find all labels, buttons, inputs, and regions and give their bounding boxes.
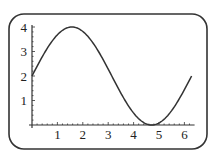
y-tick-label: 1	[21, 93, 28, 108]
y-tick-label: 2	[21, 69, 28, 84]
x-tick-label: 6	[181, 127, 188, 142]
data-line	[32, 27, 192, 125]
x-tick-label: 3	[105, 127, 112, 142]
y-tick-label: 4	[21, 20, 28, 35]
axes: 1234561234	[21, 20, 195, 143]
y-tick-label: 3	[21, 44, 28, 59]
x-tick-label: 4	[130, 127, 137, 142]
plot-figure: 1234561234	[0, 0, 216, 154]
x-tick-label: 1	[54, 127, 61, 142]
x-tick-label: 5	[156, 127, 163, 142]
x-tick-label: 2	[80, 127, 87, 142]
